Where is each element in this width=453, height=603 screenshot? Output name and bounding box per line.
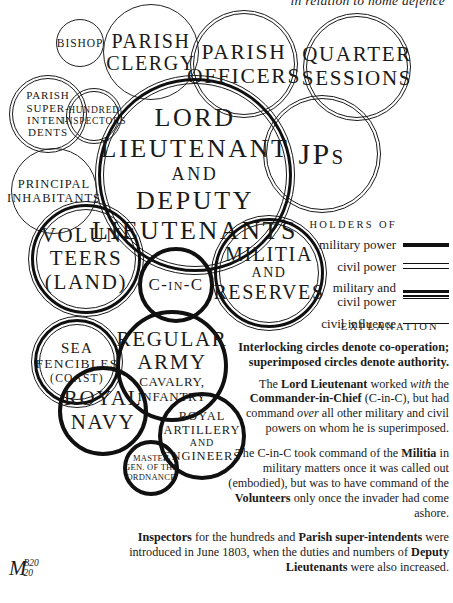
legend-label: military and civil power [320, 281, 396, 308]
clipped-title-text: in relation to home defence [291, 0, 446, 9]
legend-label: civil power [337, 260, 396, 274]
legend-label: military power [319, 238, 396, 252]
circle-label-line: PRINCIPAL [18, 177, 90, 191]
circle-label-line: SEA [61, 340, 93, 357]
explanation-paragraph: Inspectors for the hundreds and Parish s… [113, 530, 449, 575]
monogram-figures: B20 20 [24, 559, 39, 578]
circle-label-line: DENTS [28, 126, 68, 138]
circle-label-line: PARISH [202, 40, 287, 64]
circle-label-line: HUNDRED [68, 105, 120, 116]
circle-label-line: PARISH [26, 89, 69, 101]
circle-label-line: VOLUN- [41, 224, 132, 248]
legend: HOLDERS OF military power civil power mi… [297, 219, 449, 330]
diagram-canvas: in relation to home defence BISHOP PARIS… [0, 0, 453, 603]
circle-label-line: AND [172, 164, 219, 185]
circle-label-line: (LAND) [45, 271, 127, 295]
circle-label-line: SESSIONS [302, 67, 412, 91]
circle-label-line: QUARTER [302, 43, 412, 67]
circle-label-line: AND [251, 265, 286, 281]
circle-label-line: CLERGY [106, 52, 196, 74]
circle-label-line: DEPUTY [136, 186, 254, 217]
circle-label-line: PARISH [112, 30, 191, 52]
circle-label-line: BISHOP [57, 37, 103, 50]
military-power-line-sample [403, 243, 449, 247]
explanation-paragraph: The C-in-C took command of the Militia i… [219, 446, 449, 520]
circle-label-line: TEERS [50, 247, 123, 271]
military-and-civil-power-line-sample [403, 290, 449, 299]
monogram-bottom: 20 [24, 569, 39, 579]
circle-label-line: LIEUTENANT [100, 134, 289, 165]
explanation-paragraph: The Lord Lieutenant worked with the Comm… [229, 377, 449, 437]
legend-row-military-and-civil-power: military and civil power [297, 281, 449, 308]
artist-monogram: M B20 20 [9, 556, 39, 581]
explanation-section: EXPLANATION Interlocking circles denote … [113, 321, 449, 575]
explanation-paragraph: Interlocking circles denote co-operation… [205, 340, 449, 370]
circle-label-line: SUPER- [26, 102, 69, 114]
legend-row-civil-power: civil power [297, 260, 449, 274]
circle-label-line: C-in-C [149, 275, 204, 294]
circle-bishop: BISHOP [56, 19, 104, 67]
circle-volunteers-land: VOLUN- TEERS (LAND) [31, 204, 141, 314]
legend-heading: HOLDERS OF [297, 219, 397, 230]
circle-label-line: JPs [298, 137, 345, 171]
explanation-heading: EXPLANATION [113, 321, 439, 334]
circle-label-line: LORD [154, 103, 235, 134]
legend-row-military-power: military power [297, 238, 449, 252]
civil-power-line-sample [403, 263, 449, 269]
